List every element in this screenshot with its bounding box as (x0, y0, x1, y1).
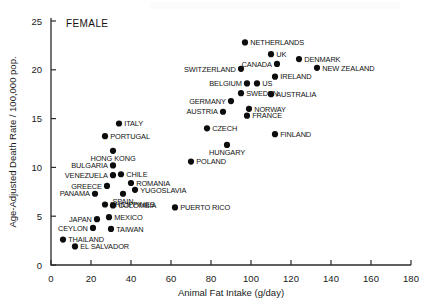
data-point-marker (116, 120, 122, 126)
data-point-marker (220, 109, 226, 115)
x-tick-label: 100 (243, 273, 259, 284)
data-point-marker (268, 91, 274, 97)
data-point-label: FRANCE (252, 111, 282, 120)
x-tick-label: 60 (166, 273, 177, 284)
x-tick-label: 140 (323, 273, 339, 284)
data-point-label: CHILE (126, 170, 147, 179)
data-point-label: US (262, 79, 272, 88)
y-tick-label: 10 (31, 162, 42, 173)
data-point-marker (172, 204, 178, 210)
data-point-marker (268, 51, 274, 57)
x-axis-title: Animal Fat Intake (g/day) (178, 287, 284, 298)
data-point-label: MEXICO (114, 213, 143, 222)
data-point-marker (132, 187, 138, 193)
data-point-marker (314, 65, 320, 71)
data-point-marker (238, 90, 244, 96)
x-tick-label: 0 (48, 273, 53, 284)
x-tick-label: 120 (283, 273, 299, 284)
data-point-marker (272, 131, 278, 137)
data-point-marker (296, 56, 302, 62)
data-point-label: HUNGARY (209, 148, 245, 157)
data-point-marker (104, 183, 110, 189)
data-point-marker (110, 172, 116, 178)
y-tick-label: 15 (31, 113, 42, 124)
data-point-marker (128, 180, 134, 186)
data-point-label: CEYLON (58, 224, 88, 233)
data-point: NEW ZEALAND (314, 64, 375, 73)
data-point-label: FINLAND (280, 130, 311, 139)
data-point-label: BELGIUM (209, 79, 242, 88)
data-point-label: PORTUGAL (110, 132, 150, 141)
data-point-marker (204, 125, 210, 131)
data-point-marker (272, 74, 278, 80)
y-tick-label: 20 (31, 64, 42, 75)
data-point-marker (244, 80, 250, 86)
data-point-marker (110, 162, 116, 168)
data-point: YUGOSLAVIA (132, 186, 187, 195)
x-tick-label: 20 (86, 273, 97, 284)
data-point-label: IRELAND (280, 72, 311, 81)
data-point-marker (90, 225, 96, 231)
data-point-marker (102, 201, 108, 207)
data-point-label: JAPAN (69, 215, 92, 224)
data-point: EL SALVADOR (72, 242, 129, 251)
data-point-label: CZECH (212, 124, 237, 133)
y-tick-label: 25 (31, 16, 42, 27)
data-point-label: SWITZERLAND (184, 65, 236, 74)
data-point-label: POLAND (196, 157, 226, 166)
data-point-marker (242, 39, 248, 45)
x-tick-label: 180 (403, 273, 419, 284)
data-point-marker (274, 61, 280, 67)
y-axis-title: Age-Adjusted Death Rate / 100,000 pop. (7, 56, 18, 227)
data-point-marker (94, 216, 100, 222)
data-point-marker (246, 106, 252, 112)
data-point-label: EL SALVADOR (80, 242, 129, 251)
data-point-label: PUERTO RICO (180, 203, 230, 212)
data-point-marker (60, 237, 66, 243)
data-point-marker (118, 171, 124, 177)
data-point-label: PANAMA (60, 189, 90, 198)
data-point: NETHERLANDS (242, 38, 304, 47)
data-point-marker (108, 226, 114, 232)
data-point-marker (228, 98, 234, 104)
data-point-label: UK (276, 50, 286, 59)
y-tick-label: 0 (37, 260, 42, 271)
data-point: PUERTO RICO (172, 203, 231, 212)
y-tick-label: 5 (37, 211, 42, 222)
data-point-label: YUGOSLAVIA (140, 186, 186, 195)
data-point-label: BULGARIA (71, 161, 108, 170)
data-point-label: DENMARK (304, 55, 340, 64)
cropped-title-artifact (150, 2, 400, 9)
data-point-label: COLOMBIA (118, 201, 156, 210)
scatter-chart: 020406080100120140160180 0510152025 Anim… (0, 0, 435, 303)
data-point-marker (238, 66, 244, 72)
data-point-marker (188, 158, 194, 164)
data-point-label: AUSTRALIA (276, 90, 316, 99)
data-point-label: TAIWAN (116, 225, 143, 234)
data-point-label: CANADA (242, 60, 272, 69)
data-point-label: GERMANY (189, 97, 226, 106)
data-point-marker (110, 202, 116, 208)
data-point-label: NETHERLANDS (250, 38, 304, 47)
data-point-label: VENEZUELA (65, 171, 108, 180)
data-point-marker (106, 214, 112, 220)
data-point-label: ITALY (124, 119, 143, 128)
data-point-marker (102, 133, 108, 139)
data-point-marker (72, 243, 78, 249)
data-point-marker (254, 80, 260, 86)
series-annotation-female: FEMALE (66, 18, 108, 29)
data-point: SWITZERLAND (184, 65, 244, 74)
x-tick-label: 40 (126, 273, 137, 284)
data-point-marker (244, 113, 250, 119)
data-point-marker (92, 191, 98, 197)
data-point-label: NEW ZEALAND (322, 64, 374, 73)
data-point-label: AUSTRIA (186, 107, 218, 116)
x-tick-label: 160 (363, 273, 379, 284)
x-tick-label: 80 (206, 273, 217, 284)
